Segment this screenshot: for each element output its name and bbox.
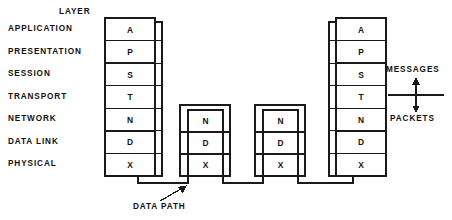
router-two-cell-physical: X bbox=[263, 161, 298, 169]
left-host-cell-presentation: P bbox=[105, 48, 155, 56]
right-host-cell-presentation: P bbox=[336, 48, 386, 56]
right-host-cell-application: A bbox=[336, 26, 386, 34]
data-path-label: DATA PATH bbox=[133, 203, 186, 211]
right-host-cell-transport: T bbox=[336, 93, 386, 101]
right-host-stack-shadow-ticks bbox=[329, 22, 336, 176]
layer-label-presentation: PRESENTATION bbox=[8, 48, 82, 56]
router-one-cell-data-link: D bbox=[188, 139, 223, 147]
router-two-cell-data-link: D bbox=[263, 139, 298, 147]
data-path-link bbox=[138, 176, 353, 183]
messages-label: MESSAGES bbox=[386, 66, 440, 74]
layer-label-session: SESSION bbox=[8, 70, 51, 78]
right-host-cell-session: S bbox=[336, 71, 386, 79]
layer-label-network: NETWORK bbox=[8, 115, 57, 123]
router-two-cell-network: N bbox=[263, 117, 298, 125]
data-path-arrow bbox=[160, 186, 186, 201]
left-host-stack-shadow-ticks bbox=[155, 22, 162, 176]
left-host-cell-data-link: D bbox=[105, 138, 155, 146]
left-host-cell-transport: T bbox=[105, 93, 155, 101]
left-host-cell-network: N bbox=[105, 116, 155, 124]
layer-label-physical: PHYSICAL bbox=[8, 160, 57, 168]
layer-label-data-link: DATA LINK bbox=[8, 138, 59, 146]
packets-label: PACKETS bbox=[390, 115, 435, 123]
left-host-cell-physical: X bbox=[105, 161, 155, 169]
left-host-cell-application: A bbox=[105, 26, 155, 34]
messages-packets-marker bbox=[388, 78, 444, 113]
router-one-cell-physical: X bbox=[188, 161, 223, 169]
right-host-cell-network: N bbox=[336, 116, 386, 124]
layer-label-transport: TRANSPORT bbox=[8, 93, 67, 101]
router-one-cell-network: N bbox=[188, 117, 223, 125]
right-host-cell-data-link: D bbox=[336, 138, 386, 146]
left-host-cell-session: S bbox=[105, 71, 155, 79]
right-host-cell-physical: X bbox=[336, 161, 386, 169]
layer-heading: LAYER bbox=[59, 8, 91, 16]
layer-label-application: APPLICATION bbox=[8, 25, 73, 33]
osi-layer-diagram: LAYER APPLICATION PRESENTATION SESSION T… bbox=[0, 0, 452, 220]
